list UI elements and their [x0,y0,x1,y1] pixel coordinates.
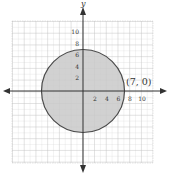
y-axis-label: y [80,0,86,8]
point-label: (7, 0) [126,76,152,87]
arrow-left-icon [3,88,10,94]
y-tick-4: 4 [75,63,79,70]
x-tick-2: 2 [93,95,97,102]
coordinate-plane: y 2 4 6 8 10 2 4 6 8 10 (7, 0) [0,0,170,178]
x-tick-4: 4 [105,95,109,102]
x-tick-10: 10 [138,95,146,102]
arrow-right-icon [160,88,167,94]
x-tick-6: 6 [117,95,121,102]
x-tick-8: 8 [128,95,132,102]
y-tick-2: 2 [75,74,79,81]
y-tick-10: 10 [71,28,79,35]
arrow-down-icon [80,165,86,173]
y-tick-8: 8 [75,40,79,47]
y-tick-6: 6 [75,51,79,58]
arrow-up-icon [80,7,86,15]
